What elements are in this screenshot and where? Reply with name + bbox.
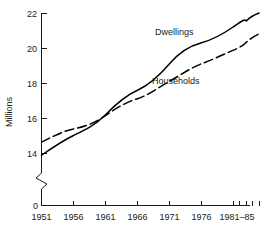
x-tick-label-1966: 1966 (127, 212, 147, 222)
y-tick-label-18: 18 (27, 79, 37, 89)
x-tick-label-1976: 1976 (191, 212, 211, 222)
y-tick-label-22: 22 (27, 9, 37, 19)
plot-area (42, 13, 260, 155)
series-line-dwellings (42, 13, 260, 155)
x-tick-label-1951: 1951 (31, 212, 51, 222)
y-axis-title: Millions (4, 97, 14, 128)
x-tick-label-1961: 1961 (95, 212, 115, 222)
y-tick-label-16: 16 (27, 114, 37, 124)
y-tick-label-14: 14 (27, 149, 37, 159)
annotation-dwellings: Dwellings (155, 27, 194, 37)
y-axis: 22 20 18 16 14 0 Millions (4, 9, 47, 211)
series-line-households (42, 34, 260, 142)
x-tick-label-1981-85: 1981–85 (219, 212, 254, 222)
line-chart-figure: 22 20 18 16 14 0 Millions (0, 0, 260, 232)
x-tick-label-1956: 1956 (63, 212, 83, 222)
x-axis: 1951 1956 1961 1966 1971 1976 1981–85 (31, 201, 259, 223)
annotation-households: Households (152, 76, 200, 86)
y-tick-label-20: 20 (27, 44, 37, 54)
x-tick-label-1971: 1971 (159, 212, 179, 222)
y-axis-break-icon (36, 170, 47, 192)
y-tick-label-zero: 0 (33, 201, 38, 211)
chart-canvas: 22 20 18 16 14 0 Millions (0, 0, 260, 232)
